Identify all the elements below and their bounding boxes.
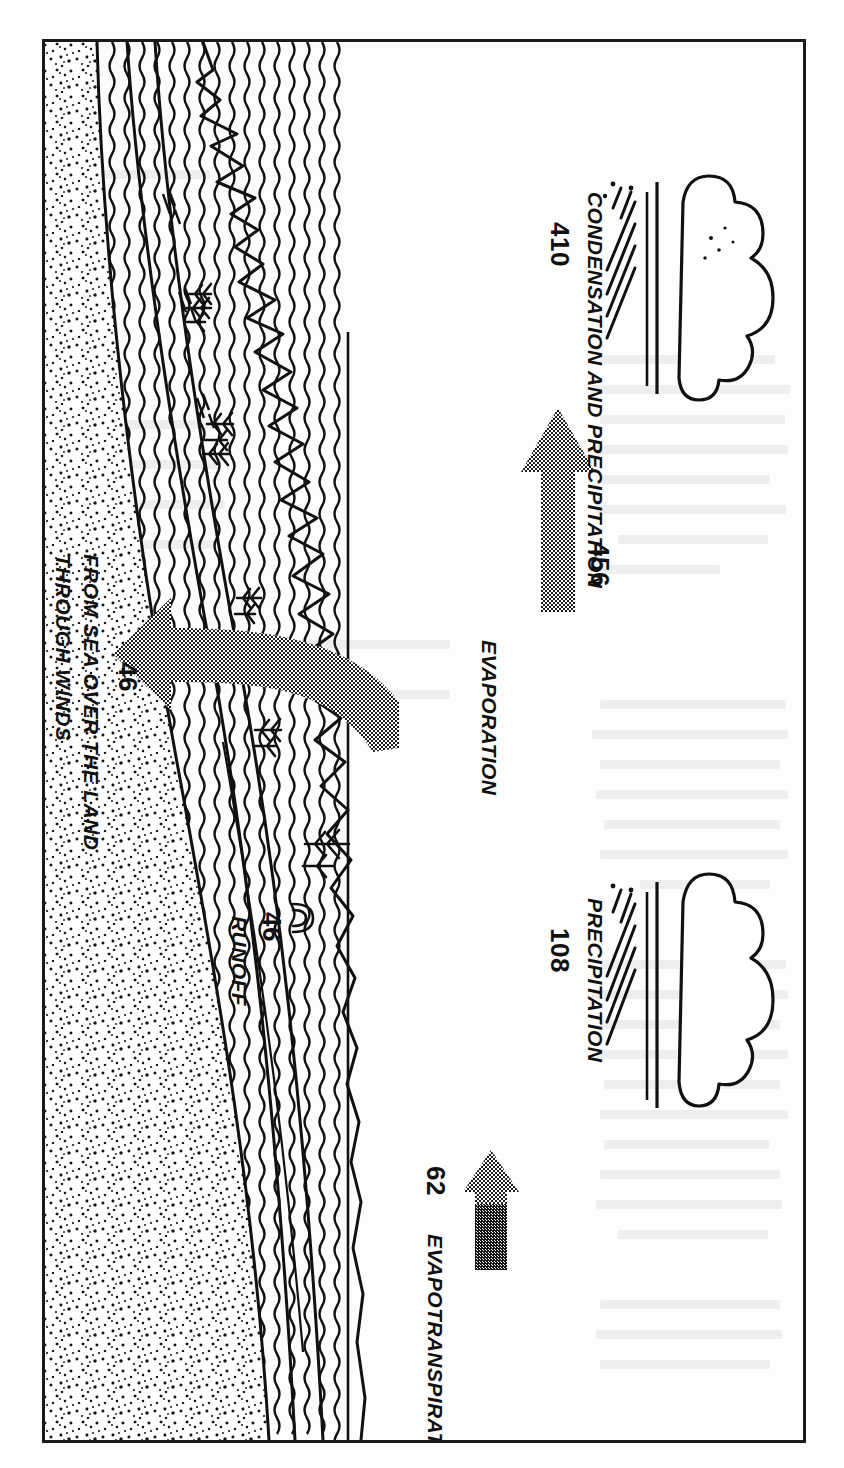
value-precipitation: 108 xyxy=(544,928,575,973)
rotated-canvas: CONDENSATION AND PRECIPITATION 410 456 E… xyxy=(45,42,803,1440)
label-evapotranspiration: EVAPOTRANSPIRATION xyxy=(423,1234,447,1443)
label-evaporation: EVAPORATION xyxy=(477,640,501,795)
value-evaporation: 456 xyxy=(584,542,615,587)
cloud-over-land xyxy=(607,874,773,1108)
value-evapotranspiration: 62 xyxy=(420,1166,451,1196)
label-runoff: RUNOFF xyxy=(227,916,251,1006)
hydrologic-cycle-drawing xyxy=(45,42,803,1440)
evapotranspiration-arrow xyxy=(463,1150,519,1270)
value-from-sea: 46 xyxy=(112,662,143,692)
hydrologic-cycle-scene: CONDENSATION AND PRECIPITATION 410 456 E… xyxy=(45,42,803,1440)
label-condensation-precipitation: CONDENSATION AND PRECIPITATION xyxy=(583,192,607,588)
cloud-over-ocean xyxy=(603,176,773,400)
label-precipitation: PRECIPITATION xyxy=(583,898,607,1062)
value-condensation-precipitation: 410 xyxy=(544,222,575,267)
label-from-sea-line1: FROM SEA OVER THE LAND xyxy=(79,554,103,850)
scanned-page: CONDENSATION AND PRECIPITATION 410 456 E… xyxy=(0,0,844,1468)
figure-frame: CONDENSATION AND PRECIPITATION 410 456 E… xyxy=(42,39,806,1443)
value-runoff: 46 xyxy=(256,912,287,942)
label-from-sea-line2: THROUGH WINDS xyxy=(51,554,75,741)
